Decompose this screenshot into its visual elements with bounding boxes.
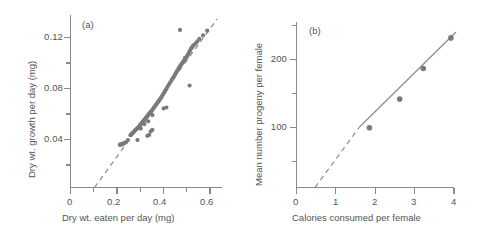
data-point-b-1 [367, 125, 373, 131]
panel-a: (a) 0.12 0.08 0.04 0 0.2 0.4 0.6 Dry wt.… [0, 0, 239, 235]
x-tick-label-a-0.2: 0.2 [107, 196, 121, 207]
x-tick-label-b-1: 1 [333, 196, 338, 207]
panel-a-tag: (a) [82, 19, 94, 30]
data-point-b-4 [448, 35, 454, 41]
y-ticks-a [64, 38, 71, 166]
y-tick-label-b-200: 200 [261, 53, 287, 64]
x-tick-label-a-0.4: 0.4 [153, 196, 167, 207]
x-tick-label-b-0: 0 [293, 196, 298, 207]
x-tick-label-b-4: 4 [451, 196, 456, 207]
panel-b-plot [239, 0, 478, 235]
figure-container: (a) 0.12 0.08 0.04 0 0.2 0.4 0.6 Dry wt.… [0, 0, 478, 235]
x-ticks-b [297, 188, 455, 195]
data-point-b-2 [397, 96, 403, 102]
panel-b-tag: (b) [309, 25, 321, 36]
scatter-points-a [118, 28, 210, 147]
x-tick-label-b-2: 2 [372, 196, 377, 207]
y-axis-title-a: Dry wt. growth per day (mg) [26, 61, 37, 178]
regression-line-b-dashed [315, 127, 360, 188]
x-axis-title-a: Dry wt. eaten per day (mg) [62, 212, 174, 223]
scatter-points-b [367, 35, 454, 130]
y-tick-label-a-0.12: 0.12 [31, 31, 63, 42]
x-tick-label-a-0: 0 [67, 196, 72, 207]
x-axis-title-b: Calories consumed per female [292, 212, 421, 223]
y-axis-title-b: Mean number progeny per female [253, 43, 264, 186]
x-tick-label-a-0.6: 0.6 [200, 196, 214, 207]
x-tick-label-b-3: 3 [411, 196, 416, 207]
panel-b: (b) 200 100 0 1 2 3 4 Calories consumed … [239, 0, 478, 235]
data-point-b-3 [421, 66, 427, 72]
y-tick-label-b-100: 100 [261, 121, 287, 132]
x-ticks-a [71, 188, 211, 195]
y-ticks-b [290, 26, 297, 162]
regression-line-b-solid [360, 32, 457, 127]
